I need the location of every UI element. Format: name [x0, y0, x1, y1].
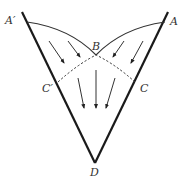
flow-arrow — [131, 41, 143, 63]
label-c-prime: C′ — [42, 82, 53, 95]
label-a-prime: A′ — [4, 14, 16, 27]
label-a: A — [169, 15, 178, 28]
flow-arrow — [78, 78, 84, 108]
wedge-flow-diagram: A′ A B C′ C D — [0, 0, 186, 185]
flow-arrow — [68, 41, 80, 57]
left-wall — [22, 12, 95, 163]
flow-arrow — [106, 78, 115, 108]
flow-arrow — [113, 41, 124, 57]
label-d: D — [89, 166, 99, 179]
dashed-curve-c-prime-b — [58, 55, 96, 82]
flow-arrow — [49, 41, 64, 63]
dashed-curve-c-b — [96, 55, 135, 82]
label-c: C — [140, 82, 149, 95]
diagram-svg: A′ A B C′ C D — [0, 0, 186, 185]
curve-a-prime-b — [27, 22, 96, 55]
label-b: B — [91, 40, 100, 53]
right-wall — [95, 12, 168, 163]
